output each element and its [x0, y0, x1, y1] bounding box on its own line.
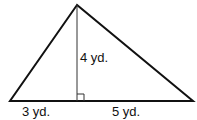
right-base-label: 5 yd.: [112, 104, 140, 119]
left-base-label: 3 yd.: [22, 104, 50, 119]
right-angle-marker-icon: [77, 94, 84, 101]
height-label: 4 yd.: [80, 50, 108, 65]
triangle-diagram: 4 yd. 3 yd. 5 yd.: [0, 0, 197, 120]
